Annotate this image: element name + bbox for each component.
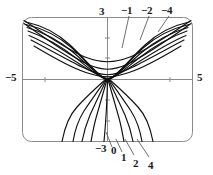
curve-left-2 <box>82 80 107 142</box>
curve-3-right <box>109 80 142 142</box>
leader-neg1 <box>122 16 129 48</box>
plot-canvas <box>0 0 213 175</box>
figure-plot: −5 5 3 −3 −1 −2 −4 0 1 2 4 <box>0 0 213 175</box>
x-axis-label-right: 5 <box>197 72 202 83</box>
x-axis-label-left: −5 <box>5 72 16 83</box>
curve-left-3 <box>73 80 106 142</box>
curve-label-2: 2 <box>133 158 138 169</box>
curve-label-4: 4 <box>148 160 153 171</box>
curve-label-1: 1 <box>121 152 126 163</box>
curve-label-neg4: −4 <box>161 5 172 16</box>
curve-2 <box>109 80 134 142</box>
y-axis-label-top: 3 <box>99 6 104 17</box>
leader-lines <box>106 16 169 157</box>
curve-label-neg2: −2 <box>141 5 152 16</box>
y-axis-label-bottom: −3 <box>95 143 106 154</box>
curve-label-0: 0 <box>111 145 116 156</box>
curve-label-neg1: −1 <box>121 5 132 16</box>
leader-neg2 <box>140 16 149 40</box>
